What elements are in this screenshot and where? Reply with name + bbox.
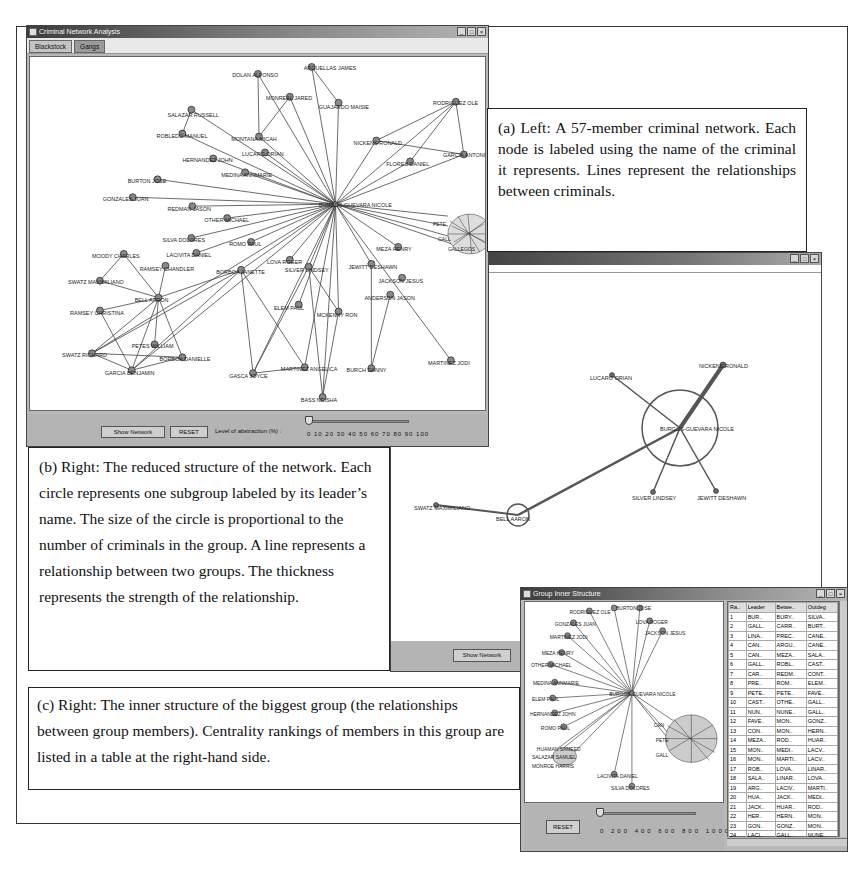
table-row[interactable]: 20HUA..JACK..MEDI.. xyxy=(729,793,838,803)
table-row[interactable]: 11NUN..NUNE..GALL.. xyxy=(729,707,838,717)
table-row[interactable]: 19ARG..LACIV..MARTI.. xyxy=(729,783,838,793)
table-row[interactable]: 2GALL..CARR..BURT.. xyxy=(729,622,838,632)
maximize-button[interactable]: □ xyxy=(826,589,835,598)
tab-blackstock[interactable]: Blackstock xyxy=(29,40,72,53)
inner-slider-thumb[interactable] xyxy=(596,808,604,817)
main-window-titlebar: Criminal Network Analysis _ □ × xyxy=(27,26,488,38)
table-cell: PETE.. xyxy=(746,688,775,698)
minimize-button[interactable]: _ xyxy=(816,589,825,598)
network-canvas[interactable]: DOLAN ALFONSOARGUELLAS JAMES MONREAL JAR… xyxy=(29,56,486,411)
maximize-button[interactable]: □ xyxy=(467,27,476,36)
table-row[interactable]: 9PETE..PETE..FAVE.. xyxy=(729,688,838,698)
reset-button[interactable]: RESET xyxy=(170,426,208,438)
table-cell: BUR.. xyxy=(746,612,775,622)
show-network-button[interactable]: Show Network xyxy=(101,426,165,438)
svg-text:RAMSEY CHANDLER: RAMSEY CHANDLER xyxy=(140,266,195,272)
svg-text:PETE: PETE xyxy=(433,222,447,227)
inner-slider-track[interactable] xyxy=(600,812,696,815)
table-row[interactable]: 16MON..MARTI..LACV.. xyxy=(729,755,838,765)
abstraction-slider-track[interactable] xyxy=(309,420,409,423)
table-cell: 18 xyxy=(729,774,747,784)
table-row[interactable]: 23GON..GONZ..MON.. xyxy=(729,821,838,831)
svg-text:PETES WILLIAM: PETES WILLIAM xyxy=(132,343,174,349)
table-cell: GONZ.. xyxy=(775,821,806,831)
column-header-betweenness[interactable]: Betwe.. xyxy=(775,603,806,613)
table-row[interactable]: 8PRE..ROM..ELEM.. xyxy=(729,679,838,689)
table-cell: MON.. xyxy=(806,821,837,831)
centrality-table[interactable]: Ra.. Leader Betwe.. Outdeg 1BUR..BURY..S… xyxy=(727,601,839,837)
table-row[interactable]: 22HER..HERN..MON.. xyxy=(729,812,838,822)
table-cell: HUA.. xyxy=(746,793,775,803)
table-cell: MEZA.. xyxy=(746,736,775,746)
table-vertical-scrollbar[interactable] xyxy=(839,601,847,837)
svg-text:BURTON JOSE: BURTON JOSE xyxy=(128,178,167,184)
tab-gangs[interactable]: Gangs xyxy=(74,40,105,53)
table-row[interactable]: 12FAVE..MON..GONZ.. xyxy=(729,717,838,727)
inner-network-canvas[interactable]: RODRIGUEZ OLEBURTON JOSE GONZALES JUANLO… xyxy=(524,601,724,803)
abstraction-slider-thumb[interactable] xyxy=(305,416,313,425)
table-cell: FAVE.. xyxy=(806,688,837,698)
table-row[interactable]: 21JACK..HUAR..ROD.. xyxy=(729,802,838,812)
table-cell: 2 xyxy=(729,622,747,632)
reset-button[interactable]: RESET xyxy=(546,820,580,834)
inner-network-graph: RODRIGUEZ OLEBURTON JOSE GONZALES JUANLO… xyxy=(525,602,723,802)
table-cell: GON.. xyxy=(746,821,775,831)
svg-text:GUAJARDO MAISIE: GUAJARDO MAISIE xyxy=(319,104,370,110)
table-row[interactable]: 13CON..MON..HERN.. xyxy=(729,726,838,736)
svg-text:LUCARO ORIAN: LUCARO ORIAN xyxy=(242,151,284,157)
show-network-button[interactable]: Show Network xyxy=(453,649,511,662)
table-row[interactable]: 17ROB..LOVA..LINAR.. xyxy=(729,764,838,774)
table-cell: CAST.. xyxy=(746,698,775,708)
table-row[interactable]: 3LINA..PREC..CANE.. xyxy=(729,631,838,641)
maximize-button[interactable]: □ xyxy=(800,254,809,263)
table-row[interactable]: 1BUR..BURY..SILVA.. xyxy=(729,612,838,622)
table-cell: 14 xyxy=(729,736,747,746)
table-cell: MEZA.. xyxy=(775,650,806,660)
table-cell: BURY.. xyxy=(775,612,806,622)
app-icon xyxy=(29,28,37,36)
table-cell: CAN.. xyxy=(746,650,775,660)
table-cell: SALA.. xyxy=(746,774,775,784)
table-cell: HUAR.. xyxy=(806,736,837,746)
svg-text:SWATZ RICHARD: SWATZ RICHARD xyxy=(62,352,107,358)
table-cell: 6 xyxy=(729,660,747,670)
table-cell: HERN.. xyxy=(806,726,837,736)
table-row[interactable]: 14MEZA..ROD..HUAR.. xyxy=(729,736,838,746)
table-row[interactable]: 10CAST..OTHE..GALL.. xyxy=(729,698,838,708)
inner-control-panel: RESET 0 200 400 600 800 1000 xyxy=(524,804,724,850)
table-horizontal-scrollbar[interactable] xyxy=(727,838,847,846)
svg-text:BURTON JOSE: BURTON JOSE xyxy=(616,606,652,611)
svg-text:LACIVITA DANIEL: LACIVITA DANIEL xyxy=(597,774,638,779)
svg-text:HERNANDEZ JOHN: HERNANDEZ JOHN xyxy=(530,712,576,717)
svg-text:MEDINA ANNMARIE: MEDINA ANNMARIE xyxy=(533,681,580,686)
table-cell: GALL.. xyxy=(806,698,837,708)
close-button[interactable]: × xyxy=(477,27,486,36)
svg-text:SILVER LINDSEY: SILVER LINDSEY xyxy=(285,267,329,273)
table-cell: MON.. xyxy=(806,812,837,822)
column-header-leader[interactable]: Leader xyxy=(746,603,775,613)
table-cell: HER.. xyxy=(746,812,775,822)
column-header-rank[interactable]: Ra.. xyxy=(729,603,747,613)
minimize-button[interactable]: _ xyxy=(790,254,799,263)
svg-text:LACIVITA DANIEL: LACIVITA DANIEL xyxy=(167,252,212,258)
table-row[interactable]: 7CAR..REDM..CONT.. xyxy=(729,669,838,679)
minimize-button[interactable]: _ xyxy=(457,27,466,36)
close-button[interactable]: × xyxy=(810,254,819,263)
table-cell: 13 xyxy=(729,726,747,736)
table-row[interactable]: 4CAN..ARGU..CANE.. xyxy=(729,641,838,651)
table-cell: ROD.. xyxy=(806,802,837,812)
table-cell: ROBL.. xyxy=(775,660,806,670)
table-cell: CANE.. xyxy=(806,631,837,641)
criminal-network-graph: DOLAN ALFONSOARGUELLAS JAMES MONREAL JAR… xyxy=(30,57,485,410)
svg-text:RODRIGUEZ OLE: RODRIGUEZ OLE xyxy=(570,610,612,615)
table-row[interactable]: 15MON..MEDI..LACV.. xyxy=(729,745,838,755)
svg-text:DOLAN ALFONSO: DOLAN ALFONSO xyxy=(232,72,278,78)
table-row[interactable]: 18SALA..LINAR..LOVA.. xyxy=(729,774,838,784)
table-row[interactable]: 5CAN..MEZA..SALA.. xyxy=(729,650,838,660)
svg-text:JACKSON JESUS: JACKSON JESUS xyxy=(378,278,423,284)
svg-text:BASS NEISHA: BASS NEISHA xyxy=(301,397,338,403)
table-row[interactable]: 6GALL..ROBL..CAST.. xyxy=(729,660,838,670)
column-header-outdegree[interactable]: Outdeg xyxy=(806,603,837,613)
close-button[interactable]: × xyxy=(836,589,845,598)
svg-text:MARTINEZ ANGELICA: MARTINEZ ANGELICA xyxy=(281,366,338,372)
